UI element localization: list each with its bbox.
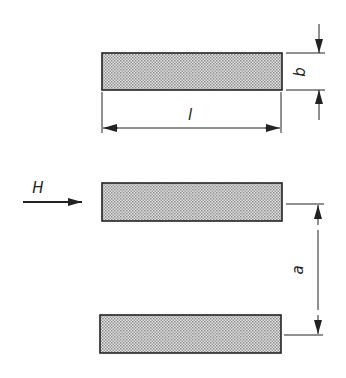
bottom-strip xyxy=(100,315,281,353)
top-strip xyxy=(102,53,282,90)
field-arrow: H xyxy=(23,179,82,202)
diagram-canvas: l b H a xyxy=(0,0,346,378)
width-dimension: b xyxy=(286,24,325,120)
field-label: H xyxy=(32,179,43,197)
length-label: l xyxy=(188,106,193,124)
middle-strip xyxy=(102,183,282,221)
spacing-label: a xyxy=(289,265,307,274)
width-label: b xyxy=(291,67,309,77)
spacing-dimension: a xyxy=(284,204,324,335)
length-dimension: l xyxy=(102,92,281,133)
